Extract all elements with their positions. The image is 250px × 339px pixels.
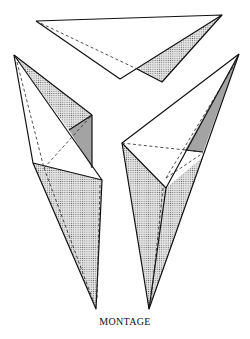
figure-caption: MONTAGE xyxy=(0,316,250,327)
right-piece xyxy=(122,54,239,309)
top-piece xyxy=(36,15,222,82)
top-piece-shaded-face xyxy=(137,15,222,82)
left-piece xyxy=(14,55,102,309)
right-piece-left-shaded-face xyxy=(122,143,166,309)
left-piece-lower-shaded-face xyxy=(33,163,102,309)
montage-diagram xyxy=(0,0,250,339)
